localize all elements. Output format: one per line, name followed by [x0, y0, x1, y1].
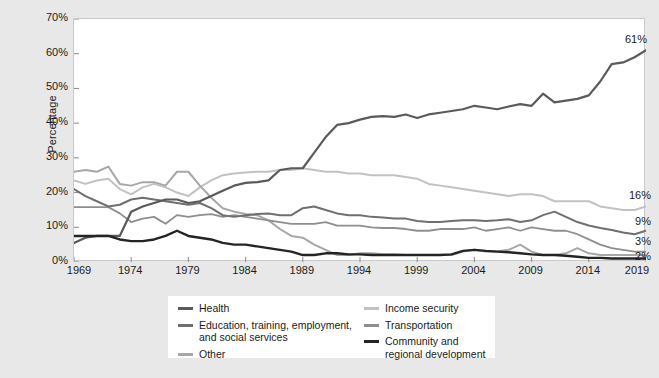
x-tick-label: 1974	[118, 264, 142, 276]
legend-color-swatch	[364, 307, 379, 310]
legend-label: Transportation	[385, 319, 452, 332]
x-tick-label: 1989	[290, 264, 314, 276]
x-tick-label: 2019	[625, 264, 649, 276]
series-line	[74, 168, 646, 210]
x-tick-label: 1979	[175, 264, 199, 276]
legend-item[interactable]: Income security	[364, 302, 494, 315]
legend-item[interactable]: Other	[178, 348, 356, 361]
legend-column-right: Income securityTransportationCommunity a…	[364, 302, 494, 364]
y-tick-label: 20%	[28, 185, 68, 197]
series-end-label: 2%	[615, 250, 651, 262]
y-tick-label: 70%	[28, 11, 68, 23]
y-axis-tick-labels: 0%10%20%30%40%50%60%70%	[26, 18, 68, 261]
series-line	[74, 231, 646, 259]
legend-color-swatch	[364, 324, 379, 327]
x-tick-label: 2014	[576, 264, 600, 276]
plot-area	[73, 18, 645, 261]
series-line	[74, 167, 646, 256]
legend-color-swatch	[178, 307, 193, 310]
series-end-label: 9%	[615, 215, 651, 227]
legend-column-left: HealthEducation, training, employment, a…	[178, 302, 356, 364]
series-line	[74, 189, 646, 234]
legend-label: Income security	[385, 302, 459, 315]
x-tick-label: 1999	[404, 264, 428, 276]
x-tick-label: 1969	[67, 264, 91, 276]
y-tick-label: 40%	[28, 115, 68, 127]
plot-lines	[74, 19, 646, 262]
legend-label: Education, training, employment, and soc…	[199, 319, 356, 344]
x-tick-label: 2009	[518, 264, 542, 276]
x-tick-label: 1984	[232, 264, 256, 276]
legend-item[interactable]: Transportation	[364, 319, 494, 332]
series-end-label: 61%	[611, 33, 647, 45]
legend-item[interactable]: Community and regional development	[364, 335, 494, 360]
legend-color-swatch	[364, 340, 379, 343]
legend-color-swatch	[178, 324, 193, 327]
y-tick-label: 10%	[28, 219, 68, 231]
legend-color-swatch	[178, 353, 193, 356]
legend-label: Other	[199, 348, 225, 361]
legend-label: Community and regional development	[385, 335, 494, 360]
y-tick-label: 50%	[28, 80, 68, 92]
x-axis-tick-labels: 1969197419791984198919941999200420092014…	[0, 264, 659, 284]
x-tick-label: 2004	[461, 264, 485, 276]
y-tick-label: 30%	[28, 150, 68, 162]
legend-item[interactable]: Education, training, employment, and soc…	[178, 319, 356, 344]
y-tick-label: 60%	[28, 46, 68, 58]
series-end-label: 16%	[615, 189, 651, 201]
series-end-label: 3%	[615, 235, 651, 247]
chart-figure: Percentage 0%10%20%30%40%50%60%70% 61%16…	[0, 0, 659, 378]
chart-legend: HealthEducation, training, employment, a…	[168, 296, 495, 358]
x-tick-label: 1994	[347, 264, 371, 276]
legend-item[interactable]: Health	[178, 302, 356, 315]
legend-label: Health	[199, 302, 229, 315]
